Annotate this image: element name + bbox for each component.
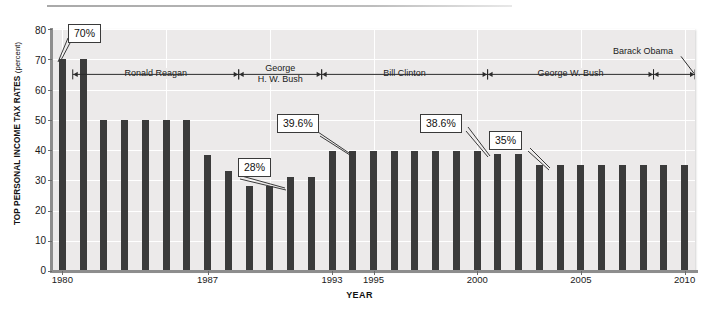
callout-35-percent: 35% (489, 131, 522, 150)
callout-70-percent: 70% (68, 24, 101, 43)
callout-leader-lines (0, 0, 719, 309)
callout-39-6-percent: 39.6% (277, 114, 319, 133)
callout-38-6-percent: 38.6% (420, 114, 462, 133)
callout-28-percent: 28% (238, 158, 271, 177)
tax-rate-bar-chart-figure: 80 70 60 50 40 30 20 10 0 TOP PERSONAL I… (0, 0, 719, 309)
